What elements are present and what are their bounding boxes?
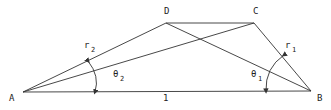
- point-label-B: B: [317, 93, 322, 103]
- point-label-D: D: [164, 6, 169, 16]
- diagram-svg: A B C D 1 r 2 θ 2 θ 1 r 1: [0, 0, 331, 110]
- diagonal-AC: [23, 23, 254, 92]
- side-AD: [23, 23, 166, 92]
- diagonal-DB: [166, 23, 311, 91]
- trapezoid-diagram: A B C D 1 r 2 θ 2 θ 1 r 1: [0, 0, 331, 110]
- radius-r1-subscript: 1: [292, 46, 296, 54]
- radius-r2-symbol: r: [84, 40, 90, 50]
- radius-r1-symbol: r: [285, 40, 291, 50]
- point-label-C: C: [253, 6, 258, 16]
- angle-theta2-symbol: θ: [113, 69, 118, 79]
- angle-theta1-arc: [266, 55, 284, 91]
- angle-theta2-arc: [88, 61, 96, 92]
- angle-theta1-subscript: 1: [258, 75, 262, 83]
- radius-r2-subscript: 2: [91, 46, 95, 54]
- angle-theta1-symbol: θ: [251, 69, 256, 79]
- point-label-A: A: [9, 93, 15, 103]
- side-CB: [254, 23, 311, 91]
- angle-theta2-subscript: 2: [120, 75, 124, 83]
- side-AB: [23, 91, 311, 92]
- base-length-label: 1: [163, 93, 168, 103]
